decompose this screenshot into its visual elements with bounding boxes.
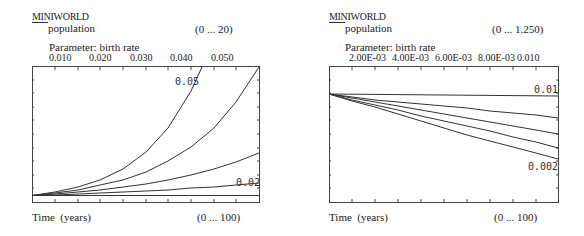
plot-frame [33,67,260,203]
plot-frame [330,67,559,203]
x-range-label: (0 ... 100) [197,212,240,223]
series-lines [329,94,558,159]
series-0.002 [329,94,558,159]
x-range-label: (0 ... 100) [494,212,537,223]
curve-label-top: 0.01 [534,84,558,95]
series-lines [32,67,259,196]
curve-label-bottom: 0.002 [528,161,558,172]
left-plot: 0.05 0.02 [0,0,292,236]
curve-label-top: 0.05 [175,76,199,87]
curve-label-bottom: 0.02 [236,177,260,188]
right-plot: 0.01 0.002 [292,0,584,236]
right-chart-panel: MINIWORLD population (0 ... 1.250) Param… [292,0,584,236]
left-chart-panel: MINIWORLD population (0 ... 20) Paramete… [0,0,292,236]
x-axis-label: Time (years) [329,212,388,223]
x-axis-label: Time (years) [32,212,91,223]
series-0.040 [32,67,259,196]
series-0.010 [329,94,558,96]
series-0.004 [329,94,558,148]
